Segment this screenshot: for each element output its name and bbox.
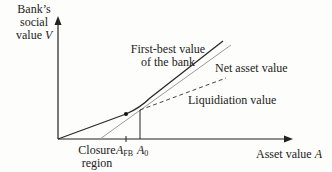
a0-subscript: 0	[144, 149, 148, 158]
closure-label-line2: region	[74, 157, 120, 170]
a-fb-label: AFB	[116, 144, 133, 160]
a0-label: A0	[137, 144, 148, 160]
y-axis-label-line3: value V	[16, 29, 52, 42]
a-fb-subscript: FB	[123, 149, 133, 158]
x-axis-arrow-icon	[284, 136, 293, 143]
x-axis-variable: A	[315, 147, 322, 161]
y-axis-label: Bank’s social value V	[16, 3, 52, 42]
first-best-label: First-best value of the bank	[123, 43, 213, 69]
liquidation-value-label: Liquidiation value	[188, 94, 276, 107]
y-axis-label-prefix: value	[16, 28, 45, 42]
x-axis-label-prefix: Asset value	[256, 147, 315, 161]
first-best-label-line2: of the bank	[123, 56, 213, 69]
net-asset-value-label: Net asset value	[215, 62, 288, 75]
closure-region-label: Closure region	[74, 144, 120, 170]
x-axis-label: Asset value A	[256, 148, 322, 161]
y-axis-arrow-icon	[55, 16, 62, 25]
a-fb-point	[124, 112, 128, 116]
y-axis-variable: V	[45, 28, 52, 42]
